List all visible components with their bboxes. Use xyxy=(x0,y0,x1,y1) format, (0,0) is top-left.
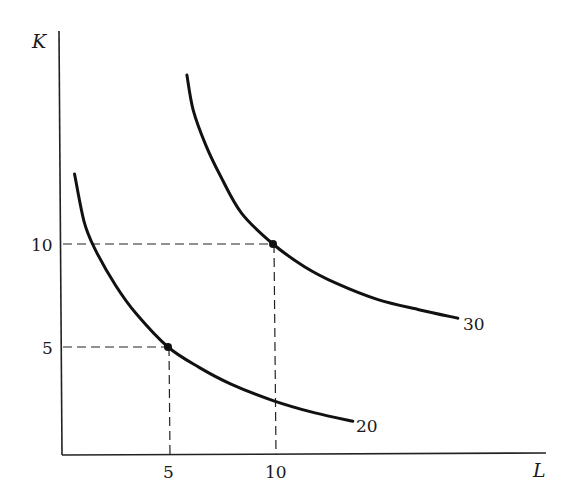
isoquant-chart: K L 10 5 5 10 30 20 xyxy=(0,0,563,496)
isoquant-30 xyxy=(187,75,458,318)
x-axis xyxy=(62,453,546,455)
y-axis-label: K xyxy=(31,30,48,52)
x-axis-label: L xyxy=(532,459,546,481)
point-10-10 xyxy=(269,240,277,248)
isoquant-20 xyxy=(75,174,353,421)
y-tick-5: 5 xyxy=(42,338,53,358)
curve-label-30: 30 xyxy=(463,314,485,334)
curve-label-20: 20 xyxy=(356,416,378,436)
x-tick-5: 5 xyxy=(163,462,174,482)
y-axis xyxy=(59,31,62,455)
x-tick-10: 10 xyxy=(265,462,287,482)
y-tick-10: 10 xyxy=(31,235,53,255)
dashed-l5 xyxy=(169,347,170,455)
dashed-l10 xyxy=(274,244,276,455)
point-5-5 xyxy=(164,343,172,351)
